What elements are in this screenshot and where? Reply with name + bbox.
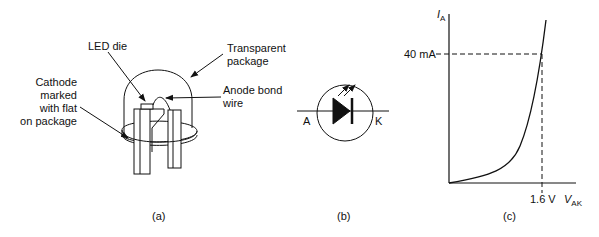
- diode-triangle: [333, 98, 350, 124]
- label-cathode-3: with flat: [10, 102, 77, 115]
- caption-c: (c): [503, 210, 516, 223]
- label-cathode-2: marked: [10, 89, 77, 102]
- caption-b: (b): [337, 210, 350, 223]
- label-cathode-4: on package: [10, 115, 77, 128]
- label-cathode-k: K: [375, 115, 382, 128]
- label-anode-a: A: [303, 115, 310, 128]
- caption-a: (a): [152, 210, 165, 223]
- led-package-drawing: [80, 52, 223, 174]
- x-axis-label: VAK: [564, 193, 582, 210]
- label-led-die: LED die: [88, 40, 127, 53]
- led-die: [141, 104, 153, 109]
- y-axis-label: IA: [437, 8, 445, 25]
- label-anode-2: wire: [223, 97, 243, 110]
- label-cathode-1: Cathode: [10, 76, 77, 89]
- anode-lead: [168, 110, 181, 168]
- label-transparent-1: Transparent: [227, 42, 286, 55]
- iv-curve: [449, 20, 546, 183]
- x-marker-1-6v: 1.6 V: [530, 193, 556, 206]
- label-transparent-2: package: [227, 55, 269, 68]
- diagram-canvas: [0, 0, 599, 237]
- anode-bond-wire: [153, 97, 170, 110]
- label-anode-1: Anode bond: [223, 84, 282, 97]
- y-marker-40ma: 40 mA: [404, 48, 436, 61]
- led-symbol: [297, 85, 389, 141]
- iv-graph: [436, 14, 576, 193]
